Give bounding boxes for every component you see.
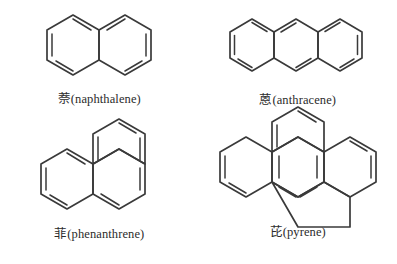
molecule-cell-anthracene: 蒽(anthracene) (199, 0, 397, 110)
pyrene-caption: 芘(pyrene) (270, 226, 326, 239)
phenanthrene-caption: 菲(phenanthrene) (54, 228, 144, 241)
molecule-cell-naphthalene: 萘(naphthalene) (0, 0, 199, 110)
naphthalene-structure-figure (0, 0, 199, 86)
pyrene-structure-figure (199, 110, 397, 222)
molecule-cell-pyrene: 芘(pyrene) (199, 110, 397, 254)
phenanthrene-skeletal-svg (37, 116, 161, 220)
molecule-grid: 萘(naphthalene) (0, 0, 397, 264)
molecule-cell-phenanthrene: 菲(phenanthrene) (0, 110, 199, 254)
clipped-bottom-caption (0, 254, 397, 264)
phenanthrene-structure-figure (0, 110, 199, 222)
naphthalene-caption: 萘(naphthalene) (58, 93, 141, 106)
anthracene-skeletal-svg (227, 15, 369, 79)
anthracene-caption: 蒽(anthracene) (259, 94, 336, 107)
anthracene-structure-figure (199, 0, 397, 84)
naphthalene-skeletal-svg (43, 10, 155, 84)
pyrene-skeletal-svg (236, 114, 360, 220)
